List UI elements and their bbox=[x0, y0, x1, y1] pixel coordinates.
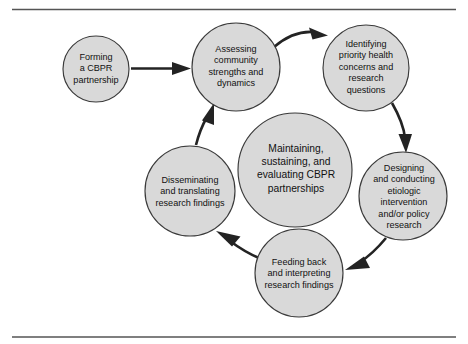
node-forming[interactable] bbox=[63, 36, 129, 102]
arrow-forming-to-assessing bbox=[131, 62, 191, 75]
figure-frame: Forming a CBPR partnership Assessing com… bbox=[0, 0, 468, 344]
arrow-identifying-to-designing bbox=[392, 103, 412, 153]
node-disseminating[interactable] bbox=[145, 146, 235, 236]
node-identifying[interactable] bbox=[323, 25, 409, 111]
node-maintaining-center[interactable] bbox=[238, 113, 352, 227]
node-feeding-back[interactable] bbox=[255, 229, 343, 317]
node-designing[interactable] bbox=[359, 152, 447, 240]
node-assessing[interactable] bbox=[192, 23, 280, 111]
arrow-assessing-to-identifying bbox=[274, 28, 328, 48]
cbpr-cycle-diagram bbox=[0, 0, 468, 344]
arrow-feeding-back-to-disseminating bbox=[216, 231, 259, 258]
arrow-disseminating-to-assessing bbox=[196, 103, 214, 145]
arrow-designing-to-feeding-back bbox=[345, 238, 386, 270]
